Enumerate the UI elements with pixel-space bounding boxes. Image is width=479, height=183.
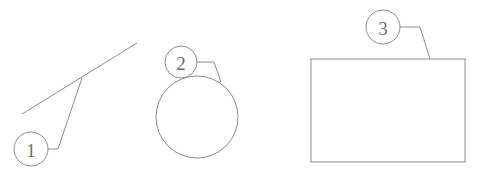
callout-3-leader-line xyxy=(400,27,430,59)
callout-2-label: 2 xyxy=(176,53,186,74)
diagonal-line-stroke xyxy=(22,43,137,114)
large-circle-stroke xyxy=(156,76,238,158)
shape-large-circle xyxy=(156,76,238,158)
callout-3[interactable]: 3 xyxy=(366,10,430,59)
callout-1[interactable]: 1 xyxy=(14,78,82,166)
callout-3-label: 3 xyxy=(378,18,388,39)
technical-drawing-figure: 1 2 3 xyxy=(0,0,479,183)
shape-rectangle xyxy=(311,59,465,162)
rectangle-stroke xyxy=(311,59,465,162)
shape-diagonal-line xyxy=(22,43,137,114)
callout-1-label: 1 xyxy=(26,140,36,161)
callout-1-leader-line xyxy=(48,78,82,149)
figure-canvas: 1 2 3 xyxy=(0,0,479,183)
